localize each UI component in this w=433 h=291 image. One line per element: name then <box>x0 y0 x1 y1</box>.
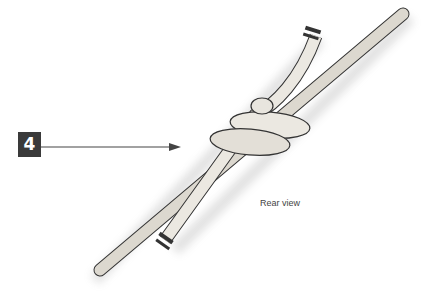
pointer-arrow-icon <box>41 143 181 151</box>
rope-end-top <box>303 26 321 41</box>
step-number-badge: 4 <box>18 132 41 157</box>
view-caption: Rear view <box>260 198 300 208</box>
